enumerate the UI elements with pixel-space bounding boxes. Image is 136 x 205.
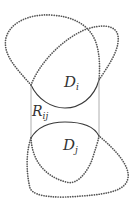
middle-region-label-sub: ij (43, 111, 49, 121)
upper-region-label-main: D (64, 73, 76, 91)
diagram-canvas: Di Rij Dj (0, 0, 136, 205)
lower-region-label-main: D (63, 136, 75, 154)
diagram-drawing (0, 0, 136, 205)
upper-region-label: Di (64, 75, 79, 92)
lower-region-label-sub: j (75, 145, 78, 155)
lower-region-label: Dj (63, 138, 78, 155)
middle-region-label: Rij (32, 104, 48, 121)
upper-region-label-sub: i (76, 82, 79, 92)
middle-region-label-main: R (32, 103, 43, 119)
upper-dotted-loop-left (5, 15, 99, 85)
